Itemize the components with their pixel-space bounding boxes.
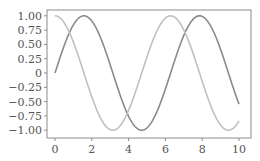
y-tick-label: −0.25 bbox=[8, 81, 42, 94]
x-tick-label: 8 bbox=[199, 143, 206, 156]
x-tick-label: 0 bbox=[52, 143, 59, 156]
y-tick-label: 0.50 bbox=[18, 38, 43, 51]
series-line-sinx bbox=[55, 16, 239, 130]
line-chart: 1.000.750.500.250−0.25−0.50−0.75−1.00 02… bbox=[0, 0, 260, 161]
y-axis: 1.000.750.500.250−0.25−0.50−0.75−1.00 bbox=[8, 10, 47, 137]
axes-frame bbox=[47, 10, 251, 138]
y-tick-label: 0 bbox=[35, 67, 42, 80]
x-axis: 0246810 bbox=[52, 138, 247, 156]
series-line-cosx bbox=[55, 16, 239, 130]
y-tick-label: 1.00 bbox=[18, 10, 43, 23]
y-tick-label: −0.75 bbox=[8, 110, 42, 123]
x-tick-label: 4 bbox=[125, 143, 132, 156]
y-tick-label: 0.25 bbox=[18, 53, 43, 66]
x-tick-label: 10 bbox=[232, 143, 246, 156]
x-tick-label: 6 bbox=[162, 143, 169, 156]
y-tick-label: −1.00 bbox=[8, 124, 42, 137]
y-tick-label: 0.75 bbox=[18, 24, 43, 37]
x-tick-label: 2 bbox=[88, 143, 95, 156]
y-tick-label: −0.50 bbox=[8, 96, 42, 109]
plot-series bbox=[55, 16, 239, 130]
